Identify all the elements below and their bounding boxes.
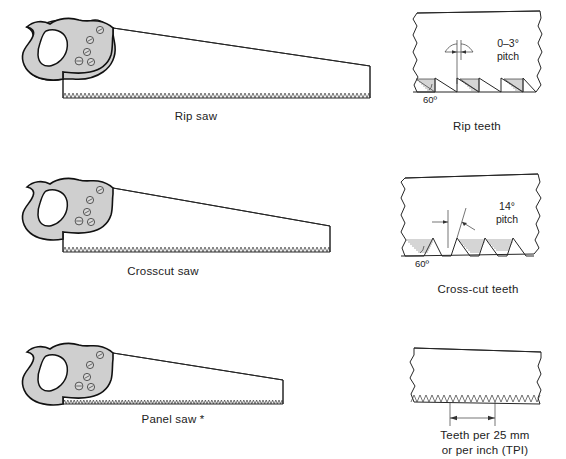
crosscut-teeth-detail-panel: 14° pitch 60º Cross-cut teeth [400, 160, 566, 310]
rip-pitch-value: 0–3° [497, 37, 519, 49]
panel-saw-caption: Panel saw * [142, 413, 205, 425]
rip-saw-panel: Rip saw [0, 0, 400, 150]
crosscut-angle-label: 60º [415, 258, 429, 270]
crosscut-teeth-caption: Cross-cut teeth [438, 283, 519, 295]
crosscut-saw-panel: Crosscut saw [0, 160, 400, 300]
tpi-caption-line2: or per inch (TPI) [442, 444, 528, 456]
crosscut-pitch-word: pitch [496, 213, 518, 225]
crosscut-saw-caption: Crosscut saw [127, 265, 198, 277]
tpi-detail-panel: Teeth per 25 mm or per inch (TPI) [405, 330, 566, 459]
rip-teeth-detail-panel: 0–3° pitch 60º Rip teeth [405, 0, 566, 150]
handsaw-icon [0, 160, 400, 300]
rip-angle-label: 60º [423, 94, 437, 106]
rip-saw-caption: Rip saw [175, 110, 217, 122]
tpi-caption-line1: Teeth per 25 mm [440, 429, 529, 441]
crosscut-pitch-annotation: 14° pitch [478, 200, 536, 226]
handsaw-icon [0, 0, 400, 150]
rip-teeth-profile [413, 78, 536, 92]
saw-handle [22, 18, 115, 80]
rip-pitch-word: pitch [497, 50, 519, 62]
rip-pitch-annotation: 0–3° pitch [478, 37, 538, 63]
rip-teeth-caption: Rip teeth [453, 120, 501, 132]
handsaw-icon [0, 325, 400, 459]
figure-canvas: Rip saw [0, 0, 566, 459]
panel-saw-panel: Panel saw * [0, 325, 400, 459]
crosscut-teeth-profile [401, 238, 534, 256]
crosscut-pitch-value: 14° [499, 200, 515, 212]
fine-teeth [411, 395, 540, 402]
